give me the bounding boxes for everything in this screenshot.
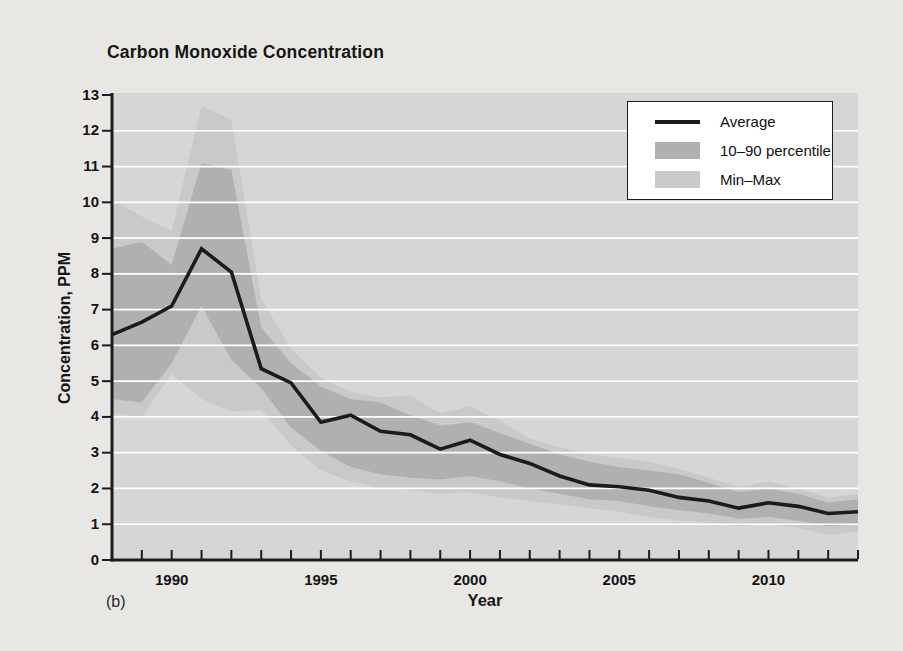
y-tick-label: 11 <box>55 157 99 174</box>
y-tick-label: 2 <box>55 479 99 496</box>
y-tick-label: 9 <box>55 229 99 246</box>
y-tick-label: 6 <box>55 336 99 353</box>
legend-item-average: Average <box>628 109 832 135</box>
legend: Average 10–90 percentile Min–Max <box>627 101 833 200</box>
average-line-swatch <box>655 120 700 124</box>
y-tick-label: 1 <box>55 515 99 532</box>
y-axis-label: Concentration, PPM <box>54 218 76 438</box>
legend-label-average: Average <box>720 113 776 130</box>
percentile-band-swatch <box>655 142 700 159</box>
y-tick-label: 4 <box>55 407 99 424</box>
x-tick-label: 1995 <box>291 571 351 588</box>
y-tick-label: 3 <box>55 443 99 460</box>
legend-label-percentile: 10–90 percentile <box>720 142 831 159</box>
y-tick-label: 13 <box>55 86 99 103</box>
y-tick-label: 12 <box>55 121 99 138</box>
x-tick-label: 2005 <box>589 571 649 588</box>
legend-item-percentile: 10–90 percentile <box>628 138 832 164</box>
co-concentration-figure: Carbon Monoxide Concentration Concentrat… <box>0 0 903 651</box>
chart-plot-area <box>0 0 903 651</box>
x-axis-label: Year <box>425 591 545 610</box>
legend-label-minmax: Min–Max <box>720 171 781 188</box>
x-tick-label: 1990 <box>142 571 202 588</box>
y-tick-label: 8 <box>55 264 99 281</box>
page: Carbon Monoxide Concentration Concentrat… <box>0 0 903 651</box>
y-tick-label: 10 <box>55 193 99 210</box>
x-tick-label: 2000 <box>440 571 500 588</box>
chart-title: Carbon Monoxide Concentration <box>107 42 384 63</box>
legend-item-minmax: Min–Max <box>628 166 832 192</box>
x-tick-label: 2010 <box>738 571 798 588</box>
y-tick-label: 5 <box>55 372 99 389</box>
y-tick-label: 0 <box>55 551 99 568</box>
panel-label: (b) <box>106 593 126 611</box>
y-tick-label: 7 <box>55 300 99 317</box>
minmax-band-swatch <box>655 171 700 188</box>
